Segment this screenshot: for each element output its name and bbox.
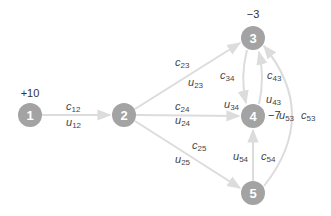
node-label: 1 bbox=[26, 108, 33, 123]
network-diagram: 1 +10 2 3 −3 4 −7 5 c12 u12 c23 u23 bbox=[0, 0, 331, 216]
edge-2-5 bbox=[135, 121, 240, 188]
capacity-label-23: u23 bbox=[188, 76, 204, 90]
capacity-label-54: u54 bbox=[233, 150, 249, 164]
capacity-label-43: u43 bbox=[266, 93, 282, 107]
node-label: 3 bbox=[249, 31, 256, 46]
cost-label-54: c54 bbox=[261, 150, 276, 164]
node-supply: +10 bbox=[21, 87, 40, 99]
node-5: 5 bbox=[241, 181, 265, 205]
node-label: 2 bbox=[120, 108, 127, 123]
capacity-label-34: u34 bbox=[224, 98, 240, 112]
cost-label-24: c24 bbox=[175, 100, 190, 114]
edge-2-4 bbox=[136, 115, 239, 116]
node-4: 4 −7 bbox=[241, 104, 281, 128]
cost-label-12: c12 bbox=[66, 100, 81, 114]
node-1: 1 +10 bbox=[18, 87, 42, 127]
edge-3-4 bbox=[243, 50, 247, 103]
cost-label-53: c53 bbox=[301, 109, 316, 123]
node-supply: −3 bbox=[247, 8, 260, 20]
cost-label-34: c34 bbox=[220, 69, 235, 83]
node-label: 4 bbox=[249, 109, 257, 124]
capacity-label-12: u12 bbox=[66, 116, 82, 130]
node-2: 2 bbox=[112, 103, 136, 127]
diagram-canvas: 1 +10 2 3 −3 4 −7 5 c12 u12 c23 u23 bbox=[0, 0, 331, 216]
edge-4-3 bbox=[259, 52, 262, 104]
cost-label-25: c25 bbox=[192, 139, 207, 153]
cost-label-23: c23 bbox=[175, 56, 190, 70]
node-3: 3 −3 bbox=[241, 8, 265, 50]
node-label: 5 bbox=[249, 186, 256, 201]
